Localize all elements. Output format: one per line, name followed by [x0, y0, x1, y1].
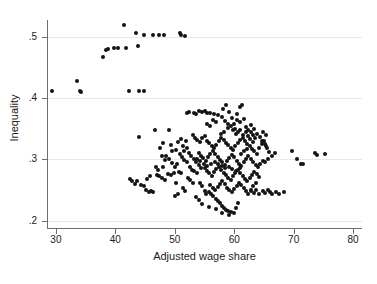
data-point	[257, 146, 261, 150]
data-point	[174, 148, 178, 152]
data-point	[157, 33, 161, 37]
data-point	[195, 157, 199, 161]
data-point	[183, 34, 187, 38]
data-point	[214, 207, 218, 211]
data-point	[223, 166, 227, 170]
data-point	[179, 171, 183, 175]
data-point	[167, 128, 171, 132]
data-point	[122, 23, 126, 27]
data-point	[230, 116, 234, 120]
data-point	[116, 46, 120, 50]
x-tick-label: 40	[100, 234, 130, 245]
data-point	[213, 160, 217, 164]
data-point	[127, 89, 131, 93]
data-point	[163, 178, 167, 182]
data-point	[75, 79, 79, 83]
data-point	[234, 206, 238, 210]
y-axis-title: Inequality	[8, 68, 20, 168]
data-point	[203, 134, 207, 138]
data-point	[235, 112, 239, 116]
data-point	[200, 184, 204, 188]
data-point	[238, 120, 242, 124]
data-point	[207, 205, 211, 209]
data-point	[134, 31, 138, 35]
data-point	[173, 165, 177, 169]
data-point	[230, 190, 234, 194]
data-point	[79, 90, 83, 94]
data-point	[151, 33, 155, 37]
data-point	[185, 146, 189, 150]
x-axis-title: Adjusted wage share	[47, 250, 362, 262]
data-point	[202, 162, 206, 166]
data-point	[137, 135, 141, 139]
data-point	[195, 171, 199, 175]
data-point	[277, 192, 281, 196]
data-point	[162, 33, 166, 37]
data-point	[263, 160, 267, 164]
data-point	[137, 89, 141, 93]
data-point	[236, 201, 240, 205]
data-point	[220, 211, 224, 215]
data-point	[153, 128, 157, 132]
data-point	[323, 152, 327, 156]
data-point	[148, 174, 152, 178]
data-point	[158, 146, 162, 150]
data-point	[255, 152, 259, 156]
data-point	[179, 33, 183, 37]
data-point	[185, 160, 189, 164]
data-point	[234, 132, 238, 136]
data-point	[234, 169, 238, 173]
data-point	[191, 181, 195, 185]
data-point	[226, 126, 230, 130]
data-point	[161, 165, 165, 169]
data-point	[142, 33, 146, 37]
data-point	[233, 144, 237, 148]
data-point	[106, 47, 110, 51]
data-point	[232, 211, 236, 215]
data-point	[254, 181, 258, 185]
data-point	[179, 137, 183, 141]
data-point	[170, 161, 174, 165]
data-point	[257, 192, 261, 196]
data-point	[214, 120, 218, 124]
data-point	[205, 164, 209, 168]
data-point	[229, 178, 233, 182]
data-point	[151, 190, 155, 194]
data-point	[240, 103, 244, 107]
data-point	[231, 174, 235, 178]
data-point	[231, 148, 235, 152]
data-point	[174, 181, 178, 185]
data-point	[135, 179, 139, 183]
data-point	[256, 165, 260, 169]
data-point	[198, 140, 202, 144]
data-point	[257, 175, 261, 179]
data-point	[226, 122, 230, 126]
data-point	[173, 194, 177, 198]
x-tick-label: 50	[160, 234, 190, 245]
data-point	[172, 171, 176, 175]
data-point	[242, 117, 246, 121]
x-tick-label: 30	[41, 234, 71, 245]
data-point	[295, 157, 299, 161]
data-point	[219, 132, 223, 136]
data-point	[160, 154, 164, 158]
data-point	[183, 189, 187, 193]
data-point	[209, 162, 213, 166]
data-point	[282, 190, 286, 194]
data-point	[180, 155, 184, 159]
data-point	[161, 141, 165, 145]
data-point	[199, 166, 203, 170]
data-point	[227, 165, 231, 169]
data-point	[194, 195, 198, 199]
x-tick-label: 80	[338, 234, 368, 245]
data-point	[214, 143, 218, 147]
data-point	[169, 143, 173, 147]
data-point	[301, 162, 305, 166]
data-point	[245, 147, 249, 151]
data-point	[184, 139, 188, 143]
data-point	[224, 103, 228, 107]
data-point	[197, 198, 201, 202]
data-point	[315, 153, 319, 157]
data-point	[227, 110, 231, 114]
x-tick-label: 60	[219, 234, 249, 245]
